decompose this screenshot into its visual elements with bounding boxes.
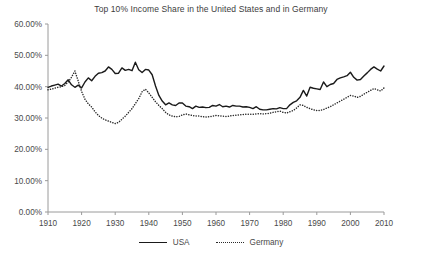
- series-lines: [48, 62, 384, 123]
- x-tick-label: 1940: [140, 219, 159, 228]
- y-tick-label: 30.00%: [14, 114, 42, 123]
- line-chart-plot: 0.00%10.00%20.00%30.00%40.00%50.00%60.00…: [0, 0, 422, 261]
- x-tick-label: 1990: [308, 219, 327, 228]
- y-tick-label: 60.00%: [14, 20, 42, 29]
- x-axis-tick-labels: 1910192019301940195019601970198019902000…: [39, 219, 394, 228]
- y-axis-tick-labels: 0.00%10.00%20.00%30.00%40.00%50.00%60.00…: [14, 20, 42, 217]
- y-tick-label: 50.00%: [14, 51, 42, 60]
- series-line-usa: [48, 62, 384, 110]
- axis-lines: [45, 24, 384, 215]
- x-tick-label: 1980: [274, 219, 293, 228]
- x-tick-label: 2010: [375, 219, 394, 228]
- x-tick-label: 1950: [173, 219, 192, 228]
- legend-swatch-dotted-line-icon: [216, 242, 244, 243]
- x-tick-label: 1970: [240, 219, 259, 228]
- series-line-germany: [48, 71, 384, 124]
- y-tick-label: 20.00%: [14, 145, 42, 154]
- legend-label-germany: Germany: [250, 238, 284, 247]
- x-tick-label: 2000: [341, 219, 360, 228]
- x-tick-label: 1930: [106, 219, 125, 228]
- x-tick-label: 1920: [72, 219, 91, 228]
- y-tick-label: 40.00%: [14, 83, 42, 92]
- legend-swatch-solid-line-icon: [139, 242, 167, 243]
- legend-item-germany: Germany: [216, 238, 284, 247]
- y-tick-label: 0.00%: [19, 208, 42, 217]
- legend-label-usa: USA: [173, 238, 190, 247]
- y-tick-label: 10.00%: [14, 177, 42, 186]
- chart-legend: USA Germany: [0, 238, 422, 247]
- chart-container: Top 10% Income Share in the United State…: [0, 0, 422, 261]
- legend-item-usa: USA: [139, 238, 190, 247]
- x-tick-label: 1960: [207, 219, 226, 228]
- x-tick-label: 1910: [39, 219, 58, 228]
